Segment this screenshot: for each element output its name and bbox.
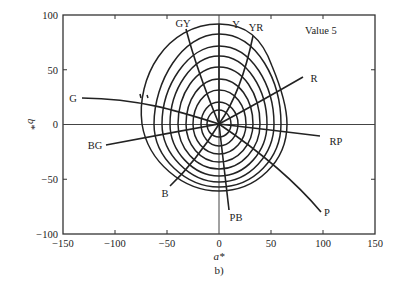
hue-label-R: R	[310, 73, 317, 84]
y-tick-labels: 100 50 0 −50 −100	[36, 10, 58, 240]
y-axis-label: b*	[26, 119, 38, 131]
svg-text:0: 0	[53, 119, 58, 130]
svg-text:150: 150	[367, 238, 383, 249]
munsell-value5-chart: −150 −100 −50 0 50 100 150 100 50 0 −50 …	[0, 0, 404, 289]
svg-text:−100: −100	[36, 229, 58, 240]
svg-text:100: 100	[315, 238, 331, 249]
hue-label-G: G	[69, 93, 77, 104]
hue-line-PB	[219, 124, 229, 210]
svg-text:0: 0	[216, 238, 221, 249]
svg-text:50: 50	[266, 238, 277, 249]
hue-label-P: P	[324, 207, 330, 218]
svg-text:50: 50	[48, 65, 59, 76]
hue-label-GY: GY	[175, 18, 191, 29]
hue-label-PB: PB	[230, 212, 243, 223]
figure-caption: b)	[214, 264, 224, 277]
svg-text:−50: −50	[42, 174, 58, 185]
hue-label-YR: YR	[249, 22, 264, 33]
hue-label-Y: Y	[232, 19, 240, 30]
x-axis-label: a*	[214, 250, 226, 262]
svg-text:−150: −150	[52, 238, 74, 249]
value-annotation: Value 5	[305, 25, 337, 36]
hue-label-RP: RP	[330, 136, 343, 147]
hue-label-B: B	[161, 188, 168, 199]
svg-text:100: 100	[42, 10, 58, 21]
hue-label-BG: BG	[88, 140, 103, 151]
svg-text:−50: −50	[159, 238, 175, 249]
x-tick-labels: −150 −100 −50 0 50 100 150	[52, 238, 383, 249]
svg-text:−100: −100	[104, 238, 126, 249]
hue-line-R	[219, 77, 303, 124]
